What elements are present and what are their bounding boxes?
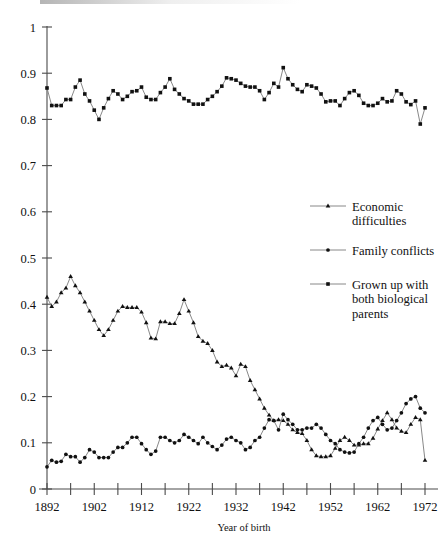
legend-item[interactable]: Family conflicts [310, 244, 434, 258]
data-point [319, 92, 323, 96]
data-point [338, 438, 343, 442]
data-point [361, 441, 366, 445]
data-point [423, 106, 427, 110]
data-point [409, 397, 413, 401]
data-point [367, 104, 371, 108]
data-point [343, 97, 347, 101]
data-point [418, 122, 422, 126]
data-point [404, 402, 408, 406]
data-point [201, 435, 205, 439]
data-point [168, 77, 172, 81]
data-point [64, 98, 68, 102]
data-point [83, 92, 87, 96]
chart-figure: 00.10.20.30.40.50.60.70.80.9118921902191… [0, 0, 442, 551]
data-point [418, 406, 422, 410]
data-point [414, 395, 418, 399]
data-point [404, 100, 408, 104]
x-axis-tick-label: 1892 [35, 500, 60, 514]
data-point [206, 98, 210, 102]
data-point [381, 422, 385, 426]
data-point [116, 92, 120, 96]
data-point [149, 452, 153, 456]
legend-triangle-marker [326, 204, 331, 208]
data-point [258, 435, 262, 439]
x-axis-tick-label: 1922 [176, 500, 201, 514]
data-point [286, 418, 290, 422]
chart-canvas: 00.10.20.30.40.50.60.70.80.9118921902191… [0, 0, 442, 551]
data-point [239, 441, 243, 445]
data-point [385, 410, 390, 414]
data-point [182, 433, 186, 437]
data-point [83, 456, 87, 460]
data-point [121, 98, 125, 102]
data-point [409, 103, 413, 107]
data-point [74, 85, 78, 89]
data-point [130, 435, 134, 439]
legend-item[interactable]: Economicdifficulties [310, 200, 406, 229]
data-point [68, 274, 73, 278]
data-point [173, 88, 177, 92]
data-point [423, 411, 427, 415]
data-point [140, 442, 144, 446]
data-point [329, 99, 333, 103]
data-point [64, 452, 68, 456]
legend-label: both biological [352, 292, 428, 306]
data-point [88, 448, 92, 452]
data-point [92, 450, 96, 454]
y-axis-tick-label: 0.5 [20, 252, 36, 266]
data-point [343, 450, 347, 454]
data-point [163, 435, 167, 439]
data-point [97, 327, 102, 331]
data-point [154, 449, 158, 453]
data-point [92, 318, 97, 322]
data-point [390, 426, 394, 430]
data-point [333, 442, 337, 446]
data-point [224, 363, 229, 367]
y-axis-tick-label: 0.4 [20, 298, 36, 312]
data-point [394, 426, 399, 430]
data-point [144, 448, 148, 452]
data-point [178, 92, 182, 96]
legend-item[interactable]: Grown up withboth biologicalparents [310, 278, 429, 321]
y-axis-tick-label: 0.9 [20, 67, 36, 81]
data-point [130, 90, 134, 94]
data-point [59, 459, 63, 463]
data-point [357, 94, 361, 98]
y-axis-tick-label: 0.7 [20, 159, 36, 173]
data-point [234, 439, 238, 443]
data-point [267, 418, 271, 422]
data-point [163, 85, 167, 89]
data-point [324, 100, 328, 104]
data-point [69, 98, 73, 102]
data-point [253, 85, 257, 89]
data-point [159, 91, 163, 95]
data-point [423, 458, 428, 462]
data-point [140, 85, 144, 89]
data-point [371, 104, 375, 108]
data-point [45, 86, 49, 90]
data-point [262, 406, 267, 410]
data-point [400, 92, 404, 96]
y-axis-tick-label: 0.6 [20, 205, 36, 219]
data-point [97, 456, 101, 460]
data-point [400, 411, 404, 415]
data-point [281, 66, 285, 70]
data-point [348, 451, 352, 455]
data-point [196, 334, 201, 338]
data-point [88, 99, 92, 103]
data-point [395, 89, 399, 93]
data-point [135, 89, 139, 93]
y-axis-tick-label: 0.1 [20, 436, 36, 450]
y-axis-tick-label: 1 [30, 21, 36, 35]
data-point [267, 91, 271, 95]
data-point [50, 104, 54, 108]
data-point [352, 450, 356, 454]
data-point [291, 83, 295, 87]
data-point [111, 318, 116, 322]
legend-label: Economic [352, 200, 403, 214]
data-point [159, 435, 163, 439]
y-axis-tick-label: 0.2 [20, 390, 36, 404]
data-point [192, 102, 196, 106]
data-point [225, 76, 229, 80]
data-point [315, 86, 319, 90]
